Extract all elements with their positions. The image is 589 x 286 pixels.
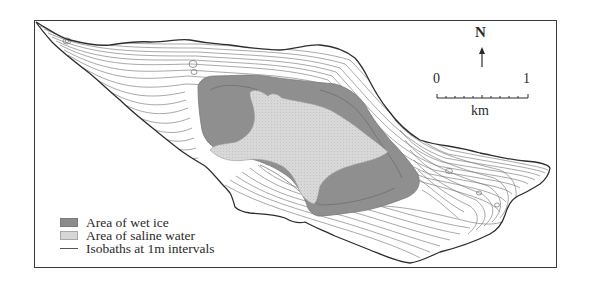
legend: Area of wet ice Area of saline water Iso… [60,216,215,255]
isobath-line-swatch [60,248,78,249]
north-label: N [475,24,486,41]
legend-item-isobaths: Isobaths at 1m intervals [60,242,215,255]
scale-end-label: 1 [523,71,530,87]
north-arrow-icon [479,47,485,67]
saline-water-swatch [60,231,78,240]
scale-bar [437,94,528,98]
scale-unit-label: km [471,103,489,119]
legend-label: Isobaths at 1m intervals [86,242,215,255]
wet-ice-swatch [60,218,78,227]
scale-start-label: 0 [433,71,440,87]
